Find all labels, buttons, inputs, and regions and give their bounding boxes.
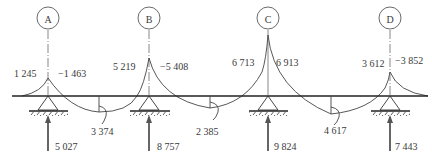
support-d: D: [371, 7, 410, 151]
supports: A B C: [29, 7, 410, 151]
support-b: B: [130, 7, 170, 151]
reaction-label: 8 757: [157, 141, 180, 152]
span-moment-labels: 3 374 2 385 4 617: [91, 125, 347, 137]
reaction-label: 5 027: [55, 141, 78, 152]
moment-label: 5 219: [113, 61, 136, 72]
moment-label: 6 913: [276, 57, 299, 68]
support-label: C: [265, 14, 272, 25]
reaction-label: 7 443: [395, 141, 418, 152]
moment-label: 1 245: [14, 68, 37, 79]
moment-label: 3 612: [362, 58, 385, 69]
span-moment-label: 3 374: [91, 126, 114, 137]
support-label: A: [44, 14, 52, 25]
moment-label: −1 463: [58, 68, 86, 79]
span-moment-label: 4 617: [324, 125, 347, 136]
support-moment-labels: 1 245 −1 463 5 219 −5 408 6 713 6 913 3 …: [14, 55, 423, 79]
span-moment-label: 2 385: [196, 126, 219, 137]
support-c: C: [249, 7, 288, 151]
moment-label: −3 852: [395, 55, 423, 66]
reaction-label: 9 824: [274, 141, 297, 152]
reaction-labels: 5 027 8 757 9 824 7 443: [55, 141, 418, 152]
support-label: D: [386, 14, 393, 25]
moment-label: 6 713: [232, 57, 255, 68]
moment-label: −5 408: [160, 61, 188, 72]
support-label: B: [146, 14, 153, 25]
beam-diagram: A B C: [0, 0, 432, 161]
